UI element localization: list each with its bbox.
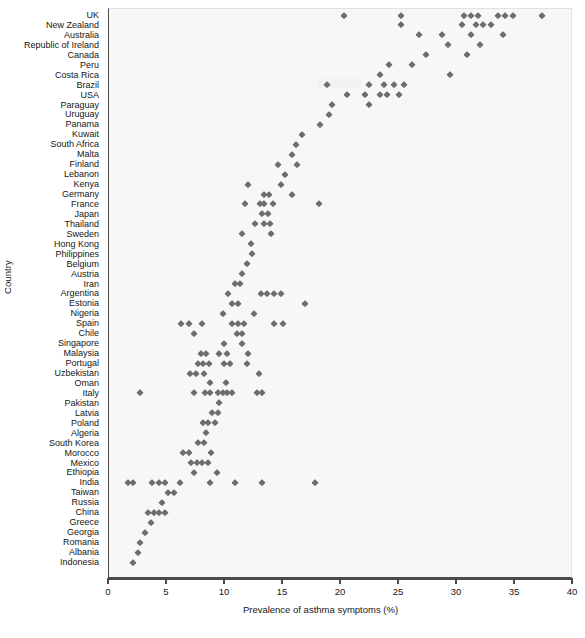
data-point [243,360,251,368]
data-point [408,61,416,69]
data-point [241,201,249,209]
data-point [255,370,263,378]
data-point [244,181,252,189]
data-point [233,330,241,338]
category-label-uk: UK [86,11,99,20]
data-point [239,330,247,338]
data-point [195,439,203,447]
data-point [398,22,406,30]
data-point [467,12,475,20]
data-point [415,32,423,40]
x-axis-tick-label: 20 [335,586,346,597]
data-point [147,519,155,527]
data-point [298,131,306,139]
x-axis-tick [223,578,224,584]
data-point [236,280,244,288]
data-point [258,479,266,487]
data-point [137,539,145,547]
category-label-lebanon: Lebanon [64,170,99,179]
x-axis: 0510152025303540 [108,578,572,580]
category-label-south-korea: South Korea [49,439,99,448]
data-point [215,350,223,358]
data-point [315,201,323,209]
category-label-peru: Peru [80,61,99,70]
category-label-pakistan: Pakistan [64,399,99,408]
category-label-finland: Finland [69,160,99,169]
category-label-uruguay: Uruguay [65,110,99,119]
data-point [292,141,300,149]
category-label-singapore: Singapore [58,339,99,348]
data-point [398,12,406,20]
category-label-japan: Japan [74,210,99,219]
data-point [270,290,278,298]
category-label-kenya: Kenya [73,180,99,189]
data-point [250,310,258,318]
category-label-costa-rica: Costa Rica [55,71,99,80]
data-point [206,479,214,487]
x-axis-tick [165,578,166,584]
x-axis-tick-label: 35 [509,586,520,597]
data-point [176,479,184,487]
category-label-panama: Panama [65,120,99,129]
data-points-layer [109,9,571,577]
category-label-albania: Albania [69,548,99,557]
data-point [190,469,198,477]
data-point [207,449,215,457]
data-point [288,151,296,159]
category-label-china: China [75,508,99,517]
data-point [472,22,480,30]
category-label-portugal: Portugal [65,359,99,368]
category-label-sweden: Sweden [66,230,99,239]
data-point [500,32,508,40]
data-point [177,320,185,328]
category-label-south-africa: South Africa [50,140,99,149]
data-point [134,549,142,557]
category-label-romania: Romania [63,538,99,547]
data-point [145,509,153,517]
data-point [240,320,248,328]
data-point [258,390,266,398]
data-point [464,51,472,59]
data-point [362,91,370,99]
data-point [263,290,271,298]
data-point [186,370,194,378]
data-point [228,320,236,328]
data-point [226,360,234,368]
scan-artifact [317,79,361,88]
data-point [422,51,430,59]
data-point [479,22,487,30]
category-label-chile: Chile [78,329,99,338]
data-point [130,479,138,487]
category-label-poland: Poland [71,419,99,428]
data-point [239,230,247,238]
data-point [239,270,247,278]
data-point [224,390,232,398]
data-point [385,61,393,69]
data-point [316,121,324,129]
data-point [208,410,216,418]
data-point [228,390,236,398]
category-label-uzbekistan: Uzbekistan [54,369,99,378]
data-point [476,42,484,50]
data-point [220,340,228,348]
data-point [130,559,138,567]
category-label-france: France [71,200,99,209]
data-point [377,91,385,99]
data-point [458,22,466,30]
data-point [190,330,198,338]
data-point [328,101,336,109]
data-point [228,300,236,308]
data-point [137,390,145,398]
data-point [199,419,207,427]
data-point [391,81,399,89]
x-axis-tick [397,578,398,584]
data-point [159,499,167,507]
data-point [150,509,158,517]
data-point [211,419,219,427]
category-label-oman: Oman [74,379,99,388]
x-axis-tick-label: 5 [163,586,168,597]
data-point [258,211,266,219]
category-label-algeria: Algeria [71,429,99,438]
asthma-prevalence-dot-plot: Country UKNew ZealandAustraliaRepublic o… [0,0,585,638]
data-point [204,459,212,467]
